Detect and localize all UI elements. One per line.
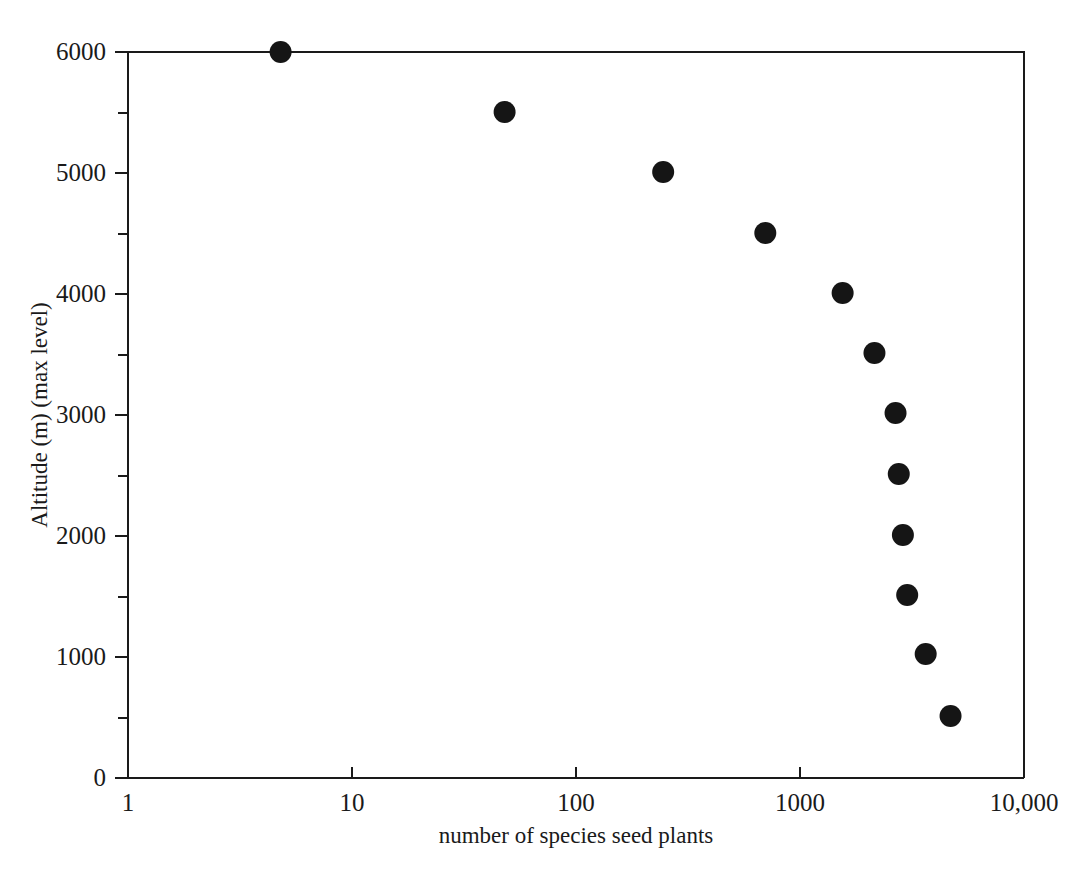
y-tick-label: 3000	[56, 401, 106, 428]
x-tick-label: 100	[557, 789, 595, 816]
y-axis-ticks	[115, 52, 128, 778]
data-point	[270, 41, 292, 63]
data-point	[896, 584, 918, 606]
y-tick-label: 5000	[56, 159, 106, 186]
data-point	[885, 402, 907, 424]
y-axis-tick-labels: 0100020003000400050006000	[56, 38, 106, 791]
y-tick-label: 1000	[56, 643, 106, 670]
x-tick-label: 10,000	[990, 789, 1059, 816]
data-point	[652, 161, 674, 183]
x-axis-title: number of species seed plants	[439, 823, 714, 848]
y-tick-label: 4000	[56, 280, 106, 307]
data-point	[863, 342, 885, 364]
data-point	[832, 282, 854, 304]
y-tick-label: 2000	[56, 522, 106, 549]
y-tick-label: 0	[94, 764, 107, 791]
scatter-plot-figure: 0100020003000400050006000 110100100010,0…	[0, 0, 1067, 874]
x-axis-ticks	[128, 767, 1024, 778]
data-point	[888, 463, 910, 485]
y-tick-label: 6000	[56, 38, 106, 65]
data-point	[494, 101, 516, 123]
x-tick-label: 1	[122, 789, 135, 816]
x-tick-label: 10	[340, 789, 365, 816]
x-axis-tick-labels: 110100100010,000	[122, 789, 1059, 816]
data-point	[892, 524, 914, 546]
data-point	[915, 643, 937, 665]
data-point	[754, 222, 776, 244]
plot-canvas: 0100020003000400050006000 110100100010,0…	[0, 0, 1067, 874]
x-tick-label: 1000	[775, 789, 825, 816]
data-point-group	[270, 41, 962, 727]
y-axis-title: Altitude (m) (max level)	[27, 302, 52, 527]
data-point	[940, 705, 962, 727]
